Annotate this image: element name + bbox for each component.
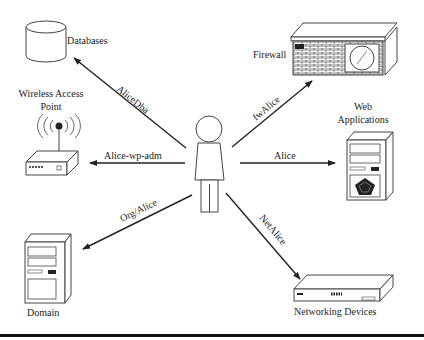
identity-diagram: AliceDba Alice-wp-adm Org/Alice fwAlice … [0, 0, 424, 340]
node-label-netdev: Networking Devices [294, 306, 377, 317]
server-tower-icon [25, 234, 71, 303]
node-label-wap-line2: Point [40, 101, 61, 112]
edge-label: Alice [274, 150, 296, 161]
bottom-divider [0, 334, 424, 337]
edge-label: Alice-wp-adm [104, 150, 162, 161]
database-icon [26, 21, 66, 62]
edge-domain: Org/Alice [83, 195, 192, 249]
person-icon [195, 116, 224, 212]
wireless-router-icon [26, 114, 80, 175]
network-switch-icon [294, 275, 393, 301]
edge-label: NetAlice [257, 212, 289, 247]
node-label-firewall: Firewall [253, 49, 287, 60]
node-label-domain: Domain [27, 307, 59, 318]
node-label-webapps-line2: Applications [337, 114, 388, 125]
firewall-icon [291, 23, 397, 75]
edge-firewall: fwAlice [232, 81, 312, 147]
node-label-webapps: Web [354, 101, 372, 112]
edge-label: AliceDba [115, 83, 152, 116]
node-label-wap: Wireless Access [19, 88, 84, 99]
edge-label: Org/Alice [118, 196, 159, 224]
edge-databases: AliceDba [74, 58, 186, 148]
edge-wap: Alice-wp-adm [90, 150, 185, 163]
edge-netdev: NetAlice [226, 193, 300, 279]
edge-webapps: Alice [240, 150, 335, 163]
web-server-icon [347, 132, 393, 200]
node-label-databases: Databases [67, 35, 108, 46]
